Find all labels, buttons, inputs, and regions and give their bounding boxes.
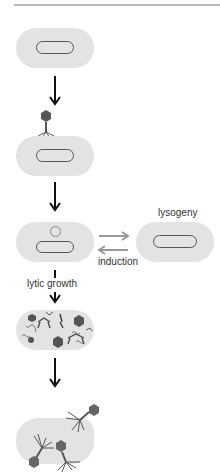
chromosome (36, 149, 74, 162)
phage-parts-icon (16, 310, 94, 350)
cell-lysogen (136, 222, 214, 262)
chromosome (36, 41, 74, 54)
label-lysogeny: lysogeny (158, 207, 197, 218)
chromosome (36, 241, 74, 253)
cell-phage-assembly (16, 310, 94, 350)
down-arrow-icon (49, 358, 61, 390)
top-divider (14, 4, 220, 6)
lysogeny-arrow-icon (99, 231, 131, 241)
cell-with-phage-dna (16, 222, 94, 262)
released-phages-icon (0, 390, 120, 472)
chromosome-with-prophage (153, 235, 197, 248)
cell-uninfected (16, 28, 94, 68)
down-arrow-icon (49, 182, 61, 214)
down-arrow-icon (49, 76, 61, 108)
label-lytic-growth: lytic growth (27, 278, 77, 289)
cell-infected (16, 136, 94, 176)
induction-arrow-icon (97, 245, 129, 255)
label-induction: induction (98, 256, 138, 267)
phage-dna-circle (50, 226, 61, 237)
